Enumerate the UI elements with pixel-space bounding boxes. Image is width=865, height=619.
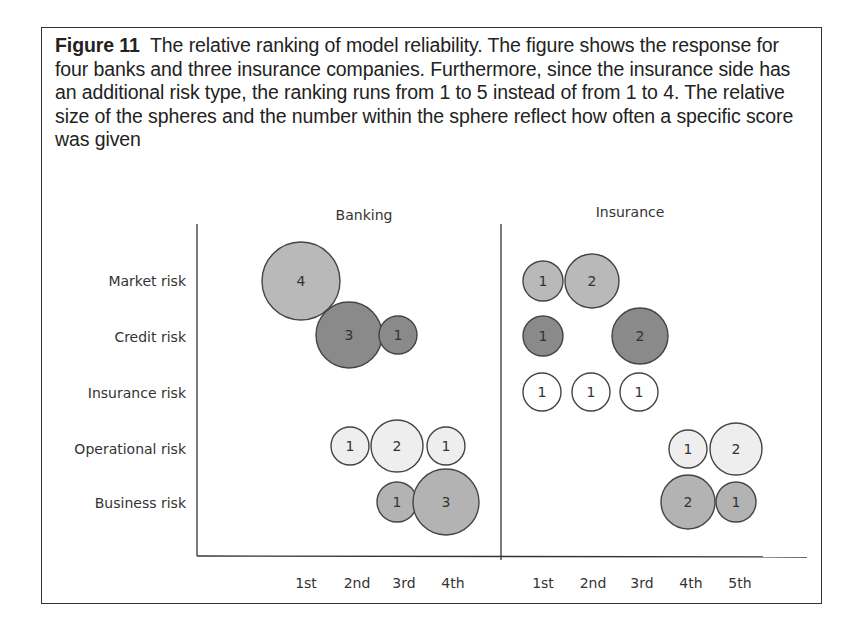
bubble-banking-business-risk: 1	[377, 482, 417, 522]
bubble-banking-credit-risk: 1	[379, 316, 417, 354]
tick-banking-4th: 4th	[441, 575, 464, 591]
bubble-chart: Banking Insurance Market risk Credit ris…	[0, 0, 865, 619]
bubble-insurance-operational-risk: 1	[669, 430, 707, 468]
x-axis	[197, 556, 807, 557]
bubble-count: 1	[635, 384, 644, 400]
bubble-insurance-business-risk: 2	[661, 475, 715, 529]
bubble-count: 1	[393, 494, 402, 510]
bubble-banking-operational-risk: 1	[331, 427, 369, 465]
tick-banking-1st: 1st	[295, 575, 317, 591]
bubble-count: 4	[297, 273, 306, 289]
bubble-count: 1	[442, 438, 451, 454]
row-label-insurance-risk: Insurance risk	[88, 385, 187, 401]
tick-banking-3rd: 3rd	[392, 575, 415, 591]
tick-insurance-2nd: 2nd	[580, 575, 607, 591]
row-labels: Market risk Credit risk Insurance risk O…	[74, 273, 187, 511]
bubble-count: 2	[393, 438, 402, 454]
bubble-insurance-business-risk: 1	[716, 482, 756, 522]
bubble-count: 2	[636, 328, 645, 344]
bubble-count: 1	[732, 494, 741, 510]
row-label-credit-risk: Credit risk	[114, 329, 186, 345]
bubble-insurance-credit-risk: 1	[523, 316, 563, 356]
bubble-insurance-insurance-risk: 1	[620, 373, 658, 411]
tick-insurance-4th: 4th	[679, 575, 702, 591]
row-label-operational-risk: Operational risk	[74, 441, 187, 457]
bubble-insurance-market-risk: 2	[565, 254, 619, 308]
bubble-count: 1	[587, 384, 596, 400]
bubble-insurance-credit-risk: 2	[612, 308, 668, 364]
tick-insurance-1st: 1st	[532, 575, 554, 591]
bubble-banking-operational-risk: 1	[427, 427, 465, 465]
bubble-count: 1	[394, 327, 403, 343]
bubbles: 4311211312121111221	[262, 242, 762, 535]
panel-title-insurance: Insurance	[596, 204, 665, 220]
bubble-count: 1	[539, 273, 548, 289]
bubble-banking-business-risk: 3	[413, 469, 479, 535]
x-tick-labels-banking: 1st 2nd 3rd 4th	[295, 575, 464, 591]
row-label-market-risk: Market risk	[108, 273, 187, 289]
tick-banking-2nd: 2nd	[344, 575, 371, 591]
bubble-count: 1	[346, 438, 355, 454]
bubble-count: 3	[345, 327, 354, 343]
bubble-count: 2	[588, 273, 597, 289]
panel-title-banking: Banking	[336, 207, 393, 223]
bubble-banking-market-risk: 4	[262, 242, 340, 320]
row-label-business-risk: Business risk	[95, 495, 187, 511]
bubble-insurance-insurance-risk: 1	[523, 373, 561, 411]
bubble-count: 2	[732, 441, 741, 457]
bubble-count: 1	[538, 384, 547, 400]
bubble-count: 3	[442, 494, 451, 510]
tick-insurance-5th: 5th	[728, 575, 751, 591]
bubble-banking-operational-risk: 2	[371, 420, 423, 472]
bubble-insurance-operational-risk: 2	[710, 423, 762, 475]
bubble-banking-credit-risk: 3	[316, 302, 382, 368]
bubble-insurance-insurance-risk: 1	[572, 373, 610, 411]
bubble-count: 1	[684, 441, 693, 457]
tick-insurance-3rd: 3rd	[630, 575, 653, 591]
bubble-count: 1	[539, 328, 548, 344]
bubble-insurance-market-risk: 1	[523, 261, 563, 301]
bubble-count: 2	[684, 494, 693, 510]
x-tick-labels-insurance: 1st 2nd 3rd 4th 5th	[532, 575, 751, 591]
